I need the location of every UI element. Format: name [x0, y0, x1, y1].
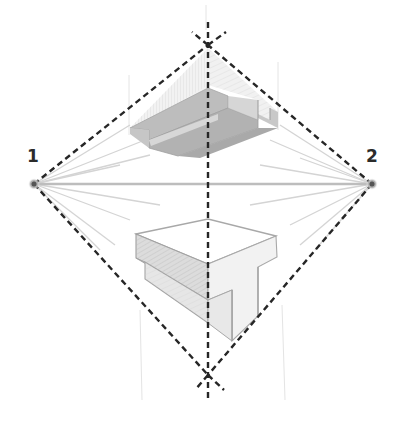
upper-shape [130, 48, 278, 158]
lower-shape [136, 219, 277, 341]
diagram-canvas [0, 0, 409, 435]
vp2-construction-rays [250, 125, 372, 250]
perspective-diagram: 1 2 [0, 0, 409, 435]
vp1-label: 1 [27, 148, 39, 165]
vp2-label: 2 [366, 148, 378, 165]
vp1-construction-rays [34, 125, 160, 250]
